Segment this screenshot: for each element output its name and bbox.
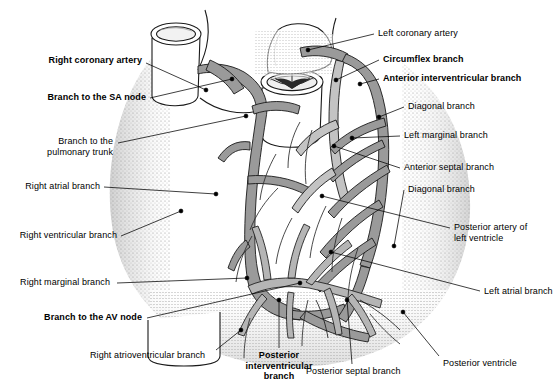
leader-endpoint-right-atrial-branch (214, 192, 218, 196)
leader-endpoint-branch-av-node (298, 281, 302, 285)
leader-endpoint-branch-pulmonary-trunk (244, 114, 248, 118)
label-diagonal-branch-lower: Diagonal branch (408, 184, 475, 195)
label-posterior-ventricle: Posterior ventricle (443, 358, 517, 369)
label-branch-av-node: Branch to the AV node (44, 312, 142, 323)
leader-endpoint-left-atrial-branch (329, 250, 333, 254)
label-right-atrial-branch: Right atrial branch (25, 181, 100, 192)
label-posterior-septal-branch: Posterior septal branch (306, 366, 401, 377)
label-diagonal-branch-upper: Diagonal branch (408, 101, 475, 112)
figure-canvas: Right coronary arteryBranch to the SA no… (0, 0, 557, 387)
leader-endpoint-anterior-septal-branch (332, 144, 336, 148)
label-anterior-septal-branch: Anterior septal branch (404, 162, 494, 173)
leader-endpoint-branch-sa-node (230, 77, 234, 81)
leader-endpoint-anterior-interventricular-branch (358, 82, 362, 86)
label-right-marginal-branch: Right marginal branch (20, 277, 110, 288)
label-right-atrioventricular-branch: Right atrioventricular branch (90, 350, 205, 361)
leader-endpoint-left-coronary-artery (306, 48, 310, 52)
label-branch-sa-node: Branch to the SA node (47, 92, 146, 103)
leader-endpoint-diagonal-branch-upper (377, 115, 381, 119)
leader-endpoint-posterior-artery-left-ventricle (320, 194, 324, 198)
label-left-coronary-artery: Left coronary artery (378, 28, 458, 39)
leader-endpoint-posterior-septal-branch (345, 298, 349, 302)
leader-endpoint-right-ventricular-branch (179, 209, 183, 213)
leader-endpoint-diagonal-branch-lower (392, 244, 396, 248)
leader-endpoint-right-coronary-artery (204, 88, 208, 92)
label-left-marginal-branch: Left marginal branch (404, 130, 488, 141)
leader-endpoint-left-marginal-branch (350, 136, 354, 140)
label-left-atrial-branch: Left atrial branch (484, 286, 553, 297)
label-circumflex-branch: Circumflex branch (383, 54, 464, 65)
leader-endpoint-posterior-interventricular-branch (277, 298, 281, 302)
leader-endpoint-right-atrioventricular-branch (239, 328, 243, 332)
label-posterior-artery-left-ventricle: Posterior artery of left ventricle (454, 222, 527, 243)
label-right-ventricular-branch: Right ventricular branch (20, 230, 117, 241)
leader-endpoint-posterior-ventricle (401, 310, 405, 314)
leader-endpoint-right-marginal-branch (245, 276, 249, 280)
label-branch-pulmonary-trunk: Branch to the pulmonary trunk (47, 136, 113, 157)
label-right-coronary-artery: Right coronary artery (49, 55, 142, 66)
leader-endpoint-circumflex-branch (334, 78, 338, 82)
label-anterior-interventricular-branch: Anterior interventricular branch (383, 73, 521, 84)
